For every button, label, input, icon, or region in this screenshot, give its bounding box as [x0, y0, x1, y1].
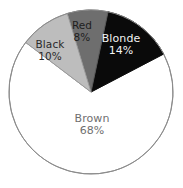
pie-chart-svg — [0, 0, 183, 188]
pie-chart: Blonde 14% Red 8% Black 10% Brown 68% — [0, 0, 183, 188]
